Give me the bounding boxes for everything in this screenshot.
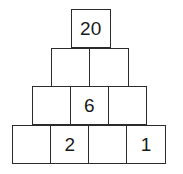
pyramid-cell-r1c1[interactable]: 20 (71, 9, 111, 48)
pyramid-cell-r2c1[interactable] (51, 48, 91, 87)
pyramid-cell-r4c1[interactable] (12, 125, 52, 164)
pyramid-row-4: 2 1 (12, 125, 166, 164)
pyramid-cell-r3c2[interactable]: 6 (70, 86, 110, 125)
pyramid-cell-r3c3[interactable] (108, 86, 148, 125)
pyramid-cell-r4c4[interactable]: 1 (126, 125, 166, 164)
pyramid-row-3: 6 (32, 86, 148, 125)
pyramid-cell-r3c1[interactable] (32, 86, 72, 125)
pyramid-cell-r4c3[interactable] (88, 125, 128, 164)
number-pyramid-figure: 20 6 2 1 (0, 0, 183, 174)
pyramid-row-2 (51, 48, 129, 87)
pyramid-row-1: 20 (71, 9, 111, 48)
pyramid-cell-r2c2[interactable] (89, 48, 129, 87)
pyramid-cell-r4c2[interactable]: 2 (50, 125, 90, 164)
